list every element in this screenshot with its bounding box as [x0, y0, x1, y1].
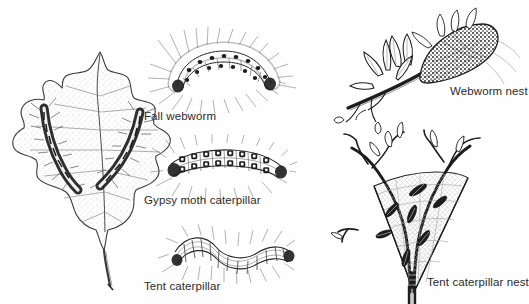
label-webworm-nest: Webworm nest	[450, 85, 528, 97]
label-tent-caterpillar-nest: Tent caterpillar nest	[427, 276, 529, 288]
label-gypsy-moth-caterpillar: Gypsy moth caterpillar	[144, 194, 261, 206]
webworm-nest-illustration	[334, 8, 520, 134]
label-tent-caterpillar: Tent caterpillar	[144, 280, 220, 292]
label-fall-webworm: Fall webworm	[144, 110, 216, 122]
gypsy-moth-caterpillar-illustration	[150, 134, 297, 203]
fall-webworm-caterpillar-illustration	[148, 27, 296, 114]
trunk-caterpillar	[409, 271, 415, 289]
tent-caterpillar-illustration	[158, 224, 295, 284]
oak-leaf-illustration	[13, 52, 171, 290]
